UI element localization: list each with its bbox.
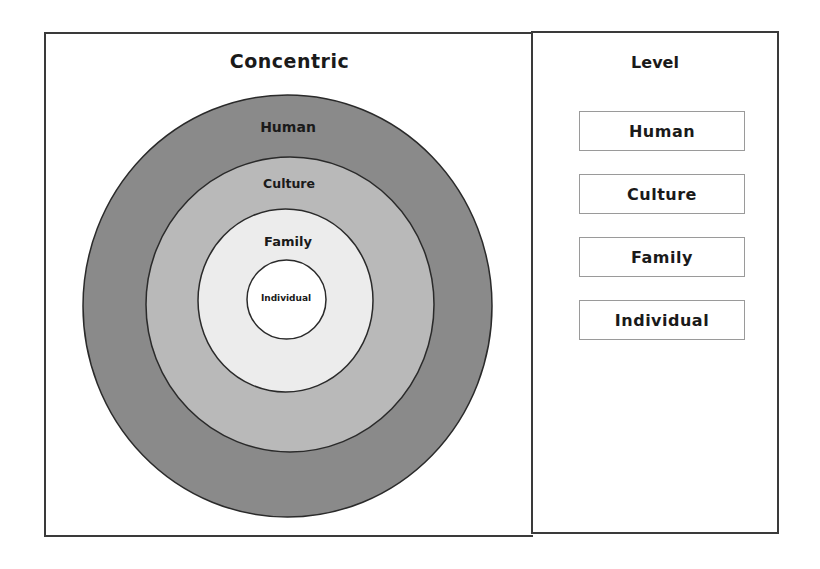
concentric-title: Concentric [46,50,533,72]
level-title: Level [533,53,777,72]
level-box-individual[interactable]: Individual [579,300,745,340]
level-box-human[interactable]: Human [579,111,745,151]
ring-individual[interactable] [247,260,326,339]
level-panel: Level Human Culture Family Individual [531,31,779,534]
level-box-family[interactable]: Family [579,237,745,277]
level-box-culture[interactable]: Culture [579,174,745,214]
